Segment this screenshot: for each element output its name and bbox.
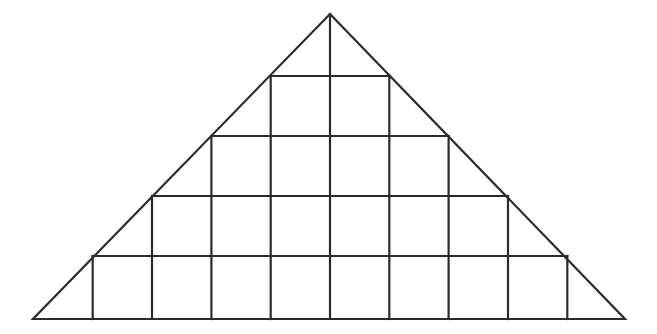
figure-canvas — [0, 0, 657, 334]
grid-vertical-lines — [93, 14, 568, 319]
triangle-grid-figure — [0, 0, 657, 334]
